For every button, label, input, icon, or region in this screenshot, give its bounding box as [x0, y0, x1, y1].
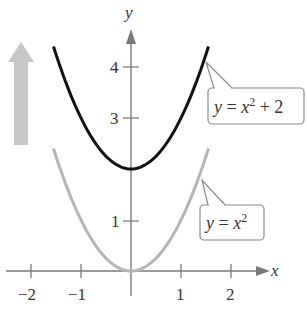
y-axis: [123, 29, 139, 296]
graph-canvas: x y −2 −1 1 2 1 3 4 y = x2 + 2 y = x2: [0, 0, 307, 309]
callout-upper-text: y = x2 + 2: [212, 95, 283, 117]
shift-up-arrow-icon: [8, 42, 34, 145]
y-tick-label: 1: [111, 212, 120, 231]
x-tick-label: −2: [18, 285, 36, 304]
y-axis-arrow-icon: [126, 29, 136, 44]
callout-lower: y = x2: [200, 180, 264, 240]
x-tick-label: 1: [176, 285, 185, 304]
x-tick-label: 2: [226, 285, 235, 304]
x-axis-label: x: [270, 261, 279, 280]
y-axis-label: y: [123, 3, 133, 22]
callout-upper: y = x2 + 2: [206, 62, 304, 124]
y-tick-label: 3: [110, 109, 119, 128]
x-axis-arrow-icon: [256, 266, 270, 276]
callout-lower-text: y = x2: [204, 211, 247, 233]
y-tick-label: 4: [110, 58, 119, 77]
x-tick-label: −1: [68, 285, 86, 304]
